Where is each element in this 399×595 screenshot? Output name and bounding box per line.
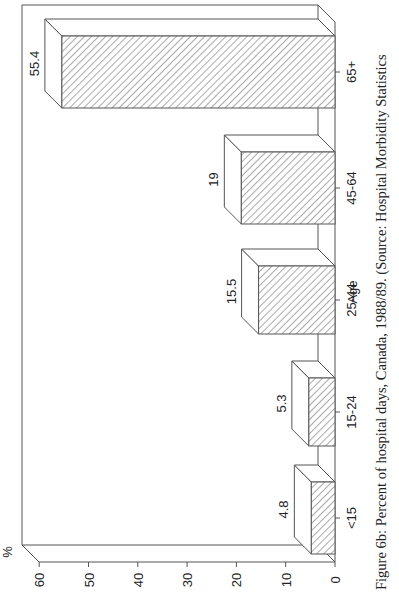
bar-value-label: 19 [206, 172, 221, 186]
bar-65-: 55.4 [27, 19, 335, 108]
category-tick-label: <15 [344, 507, 359, 529]
value-tick-label: 0 [328, 576, 343, 583]
bar-side-face [224, 135, 335, 152]
bar-front-face [311, 482, 335, 554]
value-axis-ticks: 0102030405060 [32, 562, 343, 587]
category-tick-label: 65+ [344, 61, 359, 83]
value-tick-label: 40 [131, 573, 146, 587]
bar-front-face [309, 378, 335, 446]
bar-chart: 0102030405060 4.85.315.51955.4 <1515-242… [0, 0, 399, 595]
bar-front-face [62, 36, 335, 108]
top-depth-line [22, 545, 39, 562]
bar--15: 4.8 [276, 465, 335, 554]
bar-45-64: 19 [206, 135, 335, 224]
bars: 4.85.315.51955.4 [27, 19, 335, 554]
bar-side-face [45, 19, 335, 36]
figure-caption: Figure 6b: Percent of hospital days, Can… [373, 54, 390, 590]
value-tick-label: 20 [229, 573, 244, 587]
y-axis-title: % [0, 546, 15, 558]
category-tick-label: 15-24 [344, 395, 359, 428]
x-axis-title: Age [345, 280, 360, 303]
bar-value-label: 55.4 [27, 51, 42, 76]
bar-value-label: 15.5 [224, 279, 239, 304]
value-tick-label: 60 [32, 573, 47, 587]
floor-depth-line [318, 5, 335, 22]
bar-15-24: 5.3 [274, 361, 335, 446]
bar-value-label: 4.8 [276, 500, 291, 518]
bar-front-face [241, 152, 335, 224]
value-tick-label: 50 [82, 573, 97, 587]
bar-side-face [242, 249, 335, 266]
value-tick-label: 10 [279, 573, 294, 587]
bar-value-label: 5.3 [274, 394, 289, 412]
category-tick-label: 45-64 [344, 171, 359, 204]
bar-25-44: 15.5 [224, 249, 335, 334]
bar-front-face [259, 266, 335, 334]
value-tick-label: 30 [180, 573, 195, 587]
